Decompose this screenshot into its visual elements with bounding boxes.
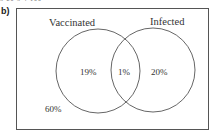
- vaccinated-label: Vaccinated: [49, 17, 96, 28]
- venn-diagram: Vaccinated Infected 19% 1% 20% 60%: [0, 0, 210, 132]
- outside-value: 60%: [45, 104, 62, 114]
- infected-only-value: 20%: [151, 67, 168, 77]
- infected-label: Infected: [150, 16, 185, 27]
- vaccinated-only-value: 19%: [80, 67, 97, 77]
- intersection-value: 1%: [118, 67, 131, 77]
